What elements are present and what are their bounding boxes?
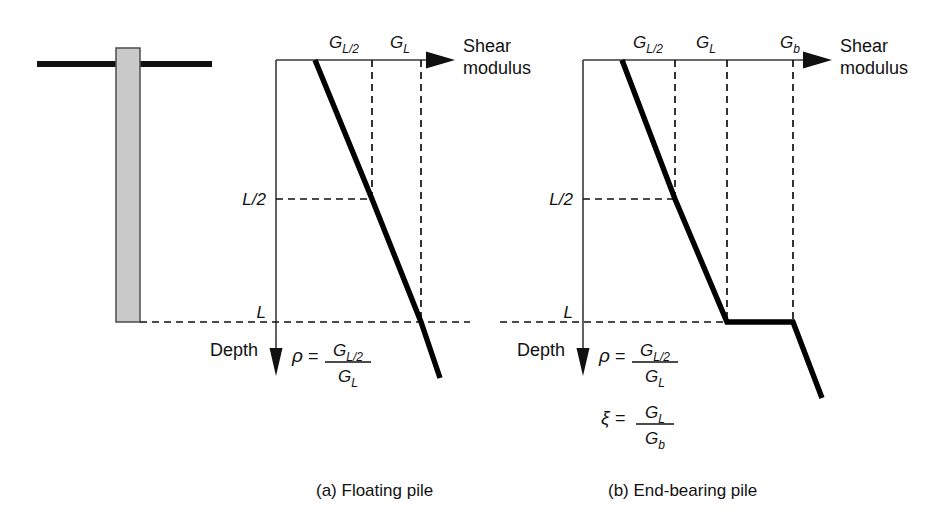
panel-b-modulus-axis-label-line1: Shear: [840, 36, 888, 56]
panel-b-tick-label-gb: Gb: [780, 33, 800, 56]
panel-a-floating-pile: GL/2 GL Shear modulus L/2 L Depth ρ =: [140, 33, 531, 500]
panel-a-eq-rho-equals: =: [308, 346, 319, 366]
panel-a-modulus-axis-label-line2: modulus: [463, 58, 531, 78]
panel-b-modulus-arrow-icon: [803, 52, 832, 69]
panel-b-eq-xi-lhs: ξ: [601, 407, 611, 428]
pile-shaft: [116, 48, 140, 322]
panel-a-depth-label-full: L: [257, 303, 266, 322]
panel-a-eq-rho-denominator: GL: [338, 367, 358, 390]
panel-a-modulus-axis-label-line1: Shear: [463, 36, 511, 56]
panel-a-tick-label-gl2: GL/2: [329, 33, 359, 56]
panel-b-modulus-axis-label-line2: modulus: [840, 58, 908, 78]
panel-b-tick-label-gl2: GL/2: [633, 33, 663, 56]
panel-a-equation-rho: ρ = GL/2 GL: [291, 341, 371, 390]
panel-b-eq-xi-numerator: GL: [645, 403, 665, 426]
panel-b-eq-rho-equals: =: [615, 346, 626, 366]
panel-a-eq-rho-lhs: ρ: [291, 345, 303, 366]
panel-a-depth-arrow-icon: [270, 348, 283, 376]
panel-b-end-bearing-pile: GL/2 GL Gb Shear modulus L/2 L Depth ρ: [500, 33, 908, 500]
panel-a-eq-rho-numerator: GL/2: [333, 341, 363, 364]
pile-schematic: [37, 48, 212, 322]
shear-modulus-figure: GL/2 GL Shear modulus L/2 L Depth ρ =: [0, 0, 946, 527]
figure-root: GL/2 GL Shear modulus L/2 L Depth ρ =: [0, 0, 946, 527]
panel-b-depth-arrow-icon: [577, 348, 590, 376]
panel-b-caption: (b) End-bearing pile: [608, 481, 757, 500]
panel-a-modulus-arrow-icon: [426, 52, 455, 69]
panel-b-tick-label-gl: GL: [696, 33, 716, 56]
panel-b-eq-xi-denominator: Gb: [645, 429, 665, 452]
panel-b-depth-label-full: L: [564, 303, 573, 322]
panel-b-depth-label-half: L/2: [549, 190, 573, 209]
panel-b-eq-rho-numerator: GL/2: [640, 341, 670, 364]
panel-b-depth-axis-label: Depth: [517, 340, 565, 360]
panel-a-caption: (a) Floating pile: [316, 481, 433, 500]
panel-b-eq-rho-lhs: ρ: [598, 345, 610, 366]
panel-b-equation-rho: ρ = GL/2 GL: [598, 341, 678, 390]
panel-b-eq-xi-equals: =: [615, 408, 626, 428]
panel-a-tick-label-gl: GL: [390, 33, 410, 56]
panel-b-equation-xi: ξ = GL Gb: [601, 403, 674, 452]
panel-a-depth-axis-label: Depth: [210, 340, 258, 360]
panel-a-depth-label-half: L/2: [242, 190, 266, 209]
panel-b-eq-rho-denominator: GL: [645, 367, 665, 390]
